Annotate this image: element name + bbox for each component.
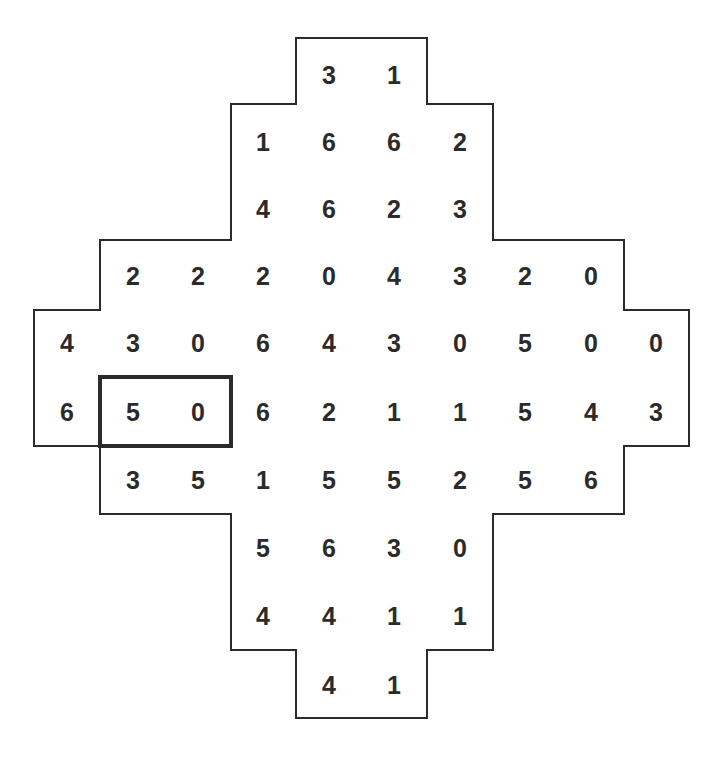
grid-cell-number[interactable]: 0 <box>322 262 336 290</box>
grid-cell-number[interactable]: 0 <box>453 329 467 357</box>
grid-cell-number[interactable]: 2 <box>191 262 205 290</box>
grid-cell-number[interactable]: 4 <box>60 329 74 357</box>
grid-cell-number[interactable]: 2 <box>387 195 401 223</box>
grid-cell-number[interactable]: 6 <box>387 128 401 156</box>
grid-cell-number[interactable]: 5 <box>191 466 205 494</box>
grid-cell-number[interactable]: 5 <box>518 398 532 426</box>
puzzle-board: 3116624623222043204306430500650621154335… <box>0 0 725 770</box>
cell-grid: 3116624623222043204306430500650621154335… <box>60 61 663 699</box>
grid-cell-number[interactable]: 5 <box>256 534 270 562</box>
grid-cell-number[interactable]: 0 <box>453 534 467 562</box>
grid-cell-number[interactable]: 4 <box>322 602 336 630</box>
grid-cell-number[interactable]: 0 <box>584 262 598 290</box>
grid-cell-number[interactable]: 2 <box>322 398 336 426</box>
grid-cell-number[interactable]: 4 <box>322 671 336 699</box>
grid-cell-number[interactable]: 2 <box>126 262 140 290</box>
grid-cell-number[interactable]: 1 <box>453 602 467 630</box>
grid-cell-number[interactable]: 6 <box>60 398 74 426</box>
grid-cell-number[interactable]: 6 <box>322 128 336 156</box>
grid-cell-number[interactable]: 3 <box>126 466 140 494</box>
grid-cell-number[interactable]: 2 <box>518 262 532 290</box>
grid-cell-number[interactable]: 3 <box>453 262 467 290</box>
grid-cell-number[interactable]: 3 <box>126 329 140 357</box>
grid-cell-number[interactable]: 1 <box>256 466 270 494</box>
grid-cell-number[interactable]: 4 <box>584 398 598 426</box>
grid-cell-number[interactable]: 3 <box>322 61 336 89</box>
grid-cell-number[interactable]: 1 <box>387 602 401 630</box>
grid-cell-number[interactable]: 6 <box>256 398 270 426</box>
highlighted-domino[interactable] <box>100 377 231 446</box>
grid-cell-number[interactable]: 6 <box>584 466 598 494</box>
grid-cell-number[interactable]: 1 <box>387 398 401 426</box>
grid-cell-number[interactable]: 6 <box>256 329 270 357</box>
grid-cell-number[interactable]: 5 <box>322 466 336 494</box>
grid-cell-number[interactable]: 1 <box>453 398 467 426</box>
grid-cell-number[interactable]: 2 <box>256 262 270 290</box>
grid-cell-number[interactable]: 2 <box>453 466 467 494</box>
grid-cell-number[interactable]: 1 <box>387 671 401 699</box>
grid-cell-number[interactable]: 6 <box>322 534 336 562</box>
grid-cell-number[interactable]: 4 <box>387 262 401 290</box>
grid-cell-number[interactable]: 0 <box>649 329 663 357</box>
grid-cell-number[interactable]: 6 <box>322 195 336 223</box>
grid-cell-number[interactable]: 5 <box>518 329 532 357</box>
grid-cell-number[interactable]: 3 <box>387 329 401 357</box>
grid-cell-number[interactable]: 3 <box>387 534 401 562</box>
grid-cell-number[interactable]: 4 <box>256 195 270 223</box>
grid-cell-number[interactable]: 0 <box>191 329 205 357</box>
grid-cell-number[interactable]: 3 <box>453 195 467 223</box>
grid-cell-number[interactable]: 0 <box>584 329 598 357</box>
grid-cell-number[interactable]: 3 <box>649 398 663 426</box>
grid-cell-number[interactable]: 5 <box>518 466 532 494</box>
grid-cell-number[interactable]: 2 <box>453 128 467 156</box>
grid-cell-number[interactable]: 4 <box>322 329 336 357</box>
grid-cell-number[interactable]: 1 <box>387 61 401 89</box>
grid-cell-number[interactable]: 0 <box>191 398 205 426</box>
grid-cell-number[interactable]: 4 <box>256 602 270 630</box>
grid-cell-number[interactable]: 5 <box>387 466 401 494</box>
grid-cell-number[interactable]: 1 <box>256 128 270 156</box>
grid-cell-number[interactable]: 5 <box>126 398 140 426</box>
